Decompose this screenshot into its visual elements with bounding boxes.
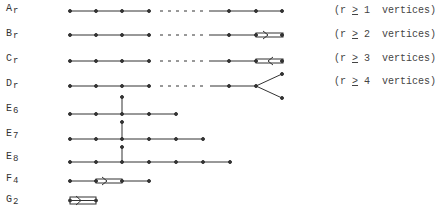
diagram-d-r [69, 73, 284, 100]
diagram-a-r [69, 10, 284, 13]
diagram-b-r [69, 31, 284, 39]
diagram-e7 [69, 121, 205, 141]
diagram-e6 [69, 96, 178, 116]
diagram-e8 [69, 146, 232, 164]
dynkin-diagrams [0, 0, 448, 211]
diagram-f4 [69, 177, 151, 185]
diagram-g2 [69, 196, 98, 205]
diagram-c-r [69, 57, 284, 65]
